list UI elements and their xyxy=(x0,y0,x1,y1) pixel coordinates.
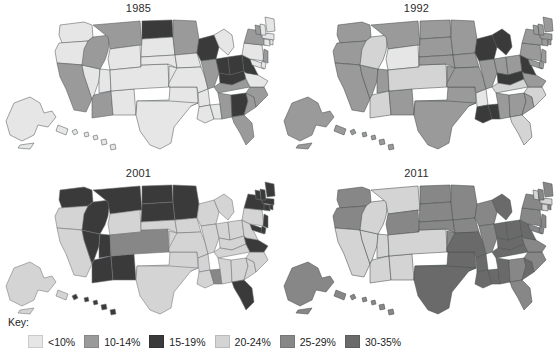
state-ak-island-0 xyxy=(56,125,68,135)
state-hi-island-1 xyxy=(93,135,98,140)
state-hi xyxy=(350,294,356,300)
legend-range-5: 30-35% xyxy=(365,336,401,348)
state-fl xyxy=(510,115,532,145)
state-ut xyxy=(99,69,111,93)
legend-item-2: 15-19% xyxy=(149,335,205,348)
legend-range-3: 20-24% xyxy=(235,336,271,348)
state-wa xyxy=(337,22,371,43)
state-hi-island-3 xyxy=(388,309,394,315)
state-mn xyxy=(451,20,477,55)
state-sd xyxy=(141,202,175,222)
state-ct xyxy=(264,204,270,211)
legend-item-3: 20-24% xyxy=(215,335,271,348)
state-fl xyxy=(232,115,254,145)
legend-title: Key: xyxy=(8,316,29,328)
state-nm xyxy=(389,254,414,280)
us-map-1985 xyxy=(0,15,277,163)
legend-swatch-icon-1 xyxy=(84,335,99,348)
panel-title-2011: 2011 xyxy=(278,167,555,179)
legend-swatch-icon-5 xyxy=(345,335,360,348)
state-hi-island-2 xyxy=(101,139,107,145)
state-hi-island-2 xyxy=(379,304,385,310)
legend-item-1: 10-14% xyxy=(84,335,140,348)
state-tx xyxy=(414,101,476,149)
state-hi-island-3 xyxy=(110,309,116,315)
panel-title-1985: 1985 xyxy=(0,2,277,14)
legend-swatch-icon-4 xyxy=(280,335,295,348)
state-hi-island-2 xyxy=(379,139,385,145)
state-nm xyxy=(111,254,136,280)
legend-item-5: 30-35% xyxy=(345,335,401,348)
state-wy xyxy=(386,210,419,235)
state-sd xyxy=(419,37,453,57)
state-nd xyxy=(142,185,173,204)
state-nh xyxy=(538,189,544,200)
state-hi-island-3 xyxy=(388,144,394,150)
state-az xyxy=(92,256,113,283)
state-nm xyxy=(111,89,136,115)
state-tx xyxy=(136,266,198,314)
state-hi-island-1 xyxy=(371,300,376,305)
state-nd xyxy=(142,20,173,39)
legend-swatch-icon-2 xyxy=(149,335,164,348)
legend: Key: <10%10-14%15-19%20-24%25-29%30-35% xyxy=(4,316,552,356)
legend-range-1: 10-14% xyxy=(104,336,140,348)
state-hi xyxy=(350,129,356,135)
state-hi xyxy=(72,294,78,300)
state-ia xyxy=(175,218,201,233)
map-panel-2001: 2001 xyxy=(0,165,277,328)
state-nd xyxy=(420,185,451,204)
state-me xyxy=(265,17,275,32)
state-fl xyxy=(232,280,254,310)
state-hi-island-0 xyxy=(362,132,367,137)
legend-swatch-icon-0 xyxy=(28,335,43,348)
legend-item-4: 25-29% xyxy=(280,335,336,348)
state-ut xyxy=(99,234,111,258)
us-map-svg-1985 xyxy=(0,15,277,163)
state-ut xyxy=(377,234,389,258)
state-hi-island-0 xyxy=(362,297,367,302)
state-hi-island-1 xyxy=(93,300,98,305)
state-nj xyxy=(263,49,268,63)
state-ak-island-1 xyxy=(296,308,312,314)
state-ak-island-0 xyxy=(56,290,68,300)
us-map-svg-1992 xyxy=(278,15,555,163)
state-fl xyxy=(510,280,532,310)
state-hi-island-2 xyxy=(101,304,107,310)
state-me xyxy=(543,182,553,197)
legend-swatch-icon-3 xyxy=(215,335,230,348)
us-map-1992 xyxy=(278,15,555,163)
legend-range-2: 15-19% xyxy=(169,336,205,348)
state-nh xyxy=(538,24,544,35)
state-ia xyxy=(453,53,479,68)
state-sd xyxy=(419,202,453,222)
state-az xyxy=(370,91,391,118)
panel-title-2001: 2001 xyxy=(0,167,277,179)
state-ia xyxy=(175,53,201,68)
state-nj xyxy=(541,214,546,228)
state-me xyxy=(543,17,553,32)
state-mn xyxy=(451,185,477,220)
state-wa xyxy=(337,187,371,208)
us-map-svg-2011 xyxy=(278,180,555,328)
state-wy xyxy=(108,210,141,235)
state-ak-island-1 xyxy=(296,143,312,149)
state-tx xyxy=(414,266,476,314)
state-ak xyxy=(284,97,334,141)
state-ak-island-1 xyxy=(18,143,34,149)
state-wa xyxy=(59,22,93,43)
panel-title-1992: 1992 xyxy=(278,2,555,14)
state-nj xyxy=(263,214,268,228)
state-wy xyxy=(108,45,141,70)
state-ut xyxy=(377,69,389,93)
state-me xyxy=(265,182,275,197)
state-ct xyxy=(542,39,548,46)
us-map-2011 xyxy=(278,180,555,328)
state-mn xyxy=(173,20,199,55)
state-ak xyxy=(284,262,334,306)
legend-range-4: 25-29% xyxy=(300,336,336,348)
legend-items: <10%10-14%15-19%20-24%25-29%30-35% xyxy=(28,335,410,348)
state-ak-island-1 xyxy=(18,308,34,314)
map-panel-2011: 2011 xyxy=(278,165,555,328)
state-nm xyxy=(389,89,414,115)
